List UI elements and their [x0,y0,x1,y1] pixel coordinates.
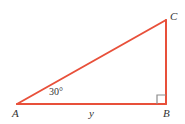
triangle-figure: C B A y 30° [0,0,185,124]
side-length-label-y: y [89,108,94,119]
angle-measure-label-a: 30° [49,86,63,97]
triangle-drawing [0,0,185,124]
vertex-label-a: A [12,108,19,119]
side-ac-hypotenuse-line [17,20,166,104]
triangle-outline [17,20,166,104]
right-angle-marker-icon [157,95,166,104]
vertex-label-c: C [170,11,177,22]
vertex-label-b: B [163,108,170,119]
